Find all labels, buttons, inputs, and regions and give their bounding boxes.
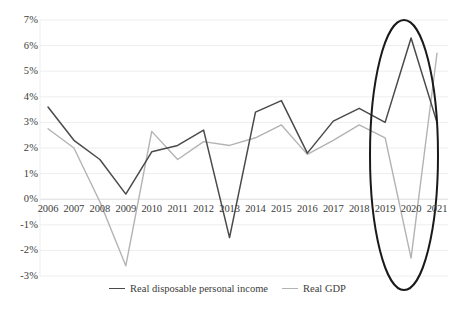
x-tick-label-2010: 2010 <box>141 203 162 214</box>
legend-label: Real disposable personal income <box>130 283 268 294</box>
x-tick-label-2016: 2016 <box>297 203 318 214</box>
x-tick-label-2021: 2021 <box>427 203 448 214</box>
x-tick-label-2007: 2007 <box>64 203 85 214</box>
x-tick-label-2020: 2020 <box>401 203 422 214</box>
line-chart: 7%6%5%4%3%2%1%0%-1%-2%-3% 20062007200820… <box>0 0 455 310</box>
legend-label: Real GDP <box>303 283 346 294</box>
legend-item-real-disposable-personal-income[interactable]: Real disposable personal income <box>109 283 268 294</box>
x-tick-label-2006: 2006 <box>38 203 59 214</box>
x-tick-label-2009: 2009 <box>115 203 136 214</box>
x-tick-label-2014: 2014 <box>245 203 266 214</box>
legend-line-swatch-icon <box>282 288 298 289</box>
x-tick-label-2013: 2013 <box>219 203 240 214</box>
x-tick-label-2017: 2017 <box>323 203 344 214</box>
x-tick-label-2012: 2012 <box>193 203 214 214</box>
x-tick-label-2018: 2018 <box>349 203 370 214</box>
x-tick-label-2008: 2008 <box>90 203 111 214</box>
x-tick-label-2019: 2019 <box>375 203 396 214</box>
legend-line-swatch-icon <box>109 288 125 289</box>
chart-legend: Real disposable personal incomeReal GDP <box>0 283 455 294</box>
x-tick-label-2015: 2015 <box>271 203 292 214</box>
x-axis-tick-labels: 2006200720082009201020112012201320142015… <box>0 0 455 310</box>
legend-item-real-gdp[interactable]: Real GDP <box>282 283 346 294</box>
x-tick-label-2011: 2011 <box>168 203 188 214</box>
